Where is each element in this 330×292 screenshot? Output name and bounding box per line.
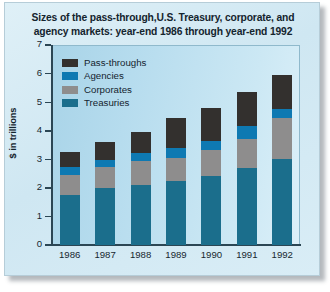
chart-title: Sizes of the pass-through,U.S. Treasury,… xyxy=(13,11,313,38)
bar-segment-agencies-1988 xyxy=(131,153,151,161)
x-axis-tick-label-1992: 1992 xyxy=(260,249,304,260)
bar-group-1990 xyxy=(201,45,221,245)
chart-legend: Pass-throughsAgenciesCorporatesTreasurie… xyxy=(62,56,146,110)
bar-group-1989 xyxy=(166,45,186,245)
legend-swatch-icon xyxy=(62,72,78,80)
y-axis-tick-labels: 76543210 xyxy=(8,0,42,292)
bar-segment-treasuries-1989 xyxy=(166,181,186,245)
y-axis-line xyxy=(51,45,53,245)
legend-item-treasuries: Treasuries xyxy=(62,97,146,110)
bar-segment-corporates-1990 xyxy=(201,150,221,177)
bar-segment-agencies-1986 xyxy=(60,167,80,175)
legend-item-label: Agencies xyxy=(84,71,124,81)
bar-segment-agencies-1989 xyxy=(166,148,186,158)
legend-item-corporates: Corporates xyxy=(62,83,146,96)
chart-title-line-1: Sizes of the pass-through,U.S. Treasury,… xyxy=(13,11,313,25)
bar-group-1992 xyxy=(272,45,292,245)
bar-segment-pass-throughs-1986 xyxy=(60,152,80,167)
bar-segment-corporates-1989 xyxy=(166,158,186,181)
y-axis-tick-label: 6 xyxy=(12,67,42,78)
bar-segment-agencies-1991 xyxy=(237,126,257,139)
bar-segment-treasuries-1990 xyxy=(201,176,221,245)
legend-item-label: Corporates xyxy=(84,85,132,95)
legend-item-pass-throughs: Pass-throughs xyxy=(62,56,146,69)
bar-segment-pass-throughs-1992 xyxy=(272,75,292,109)
y-axis-tick-label: 3 xyxy=(12,153,42,164)
bar-segment-treasuries-1988 xyxy=(131,185,151,245)
bar-segment-corporates-1991 xyxy=(237,139,257,168)
bar-segment-agencies-1987 xyxy=(95,160,115,167)
bar-segment-pass-throughs-1989 xyxy=(166,118,186,148)
y-axis-tick-label: 7 xyxy=(12,38,42,49)
bar-segment-agencies-1992 xyxy=(272,109,292,118)
bar-segment-treasuries-1986 xyxy=(60,195,80,245)
bar-segment-corporates-1986 xyxy=(60,175,80,195)
legend-swatch-icon xyxy=(62,86,78,94)
bar-segment-treasuries-1991 xyxy=(237,168,257,245)
y-axis-tick-label: 4 xyxy=(12,124,42,135)
chart-title-line-2: agency markets: year-end 1986 through ye… xyxy=(13,25,313,39)
bar-segment-pass-throughs-1987 xyxy=(95,142,115,161)
bar-segment-treasuries-1987 xyxy=(95,188,115,245)
bar-segment-pass-throughs-1991 xyxy=(237,92,257,126)
bar-segment-treasuries-1992 xyxy=(272,159,292,245)
bar-segment-corporates-1987 xyxy=(95,167,115,188)
y-axis-tick-label: 2 xyxy=(12,181,42,192)
legend-item-label: Pass-throughs xyxy=(84,58,146,68)
legend-swatch-icon xyxy=(62,59,78,67)
bar-group-1991 xyxy=(237,45,257,245)
y-axis-tick-label: 1 xyxy=(12,210,42,221)
bar-segment-corporates-1988 xyxy=(131,161,151,185)
y-axis-tick-label: 5 xyxy=(12,96,42,107)
legend-item-label: Treasuries xyxy=(84,98,129,108)
legend-item-agencies: Agencies xyxy=(62,70,146,83)
bar-segment-agencies-1990 xyxy=(201,141,221,150)
bar-segment-pass-throughs-1990 xyxy=(201,108,221,141)
bar-segment-pass-throughs-1988 xyxy=(131,132,151,153)
y-axis-tick-label: 0 xyxy=(12,238,42,249)
bar-segment-corporates-1992 xyxy=(272,118,292,159)
legend-swatch-icon xyxy=(62,99,78,107)
